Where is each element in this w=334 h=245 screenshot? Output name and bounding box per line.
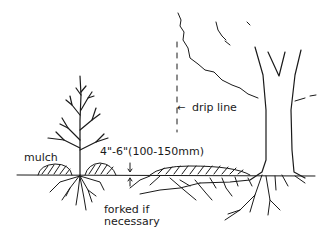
mulch-label: mulch <box>24 152 58 164</box>
canopy-detail <box>216 22 226 40</box>
depth-arrows <box>128 163 132 186</box>
drip-line-label: drip line <box>192 102 237 114</box>
canopy-detail <box>295 95 316 101</box>
mulching-diagram: mulch 4"-6"(100-150mm) ← drip line forke… <box>0 0 334 245</box>
ground-line <box>17 175 315 176</box>
canopy-detail <box>225 41 230 45</box>
depth-label: 4"-6"(100-150mm) <box>100 146 204 158</box>
mulch-mound-small-right <box>85 163 116 175</box>
canopy-detail <box>247 22 250 25</box>
mulch-mound-large <box>150 166 250 175</box>
forked-label-line2: necessary <box>104 216 160 228</box>
young-tree-roots <box>50 175 104 210</box>
mature-tree-roots <box>130 175 305 220</box>
diagram-drawing <box>0 0 334 245</box>
mulch-mound-small-left <box>38 164 72 175</box>
mature-tree-trunk-icon <box>200 47 305 183</box>
canopy-outline <box>178 13 258 98</box>
drip-arrow-icon: ← <box>177 102 185 114</box>
